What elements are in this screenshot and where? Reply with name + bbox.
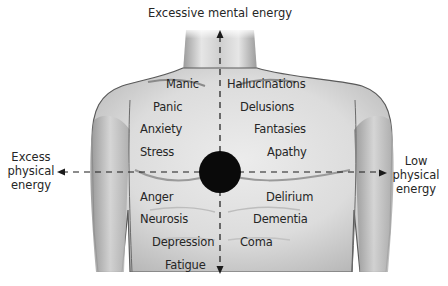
- label-dementia: Dementia: [253, 212, 308, 226]
- label-fantasies: Fantasies: [254, 122, 306, 136]
- arrow-left-icon: [57, 169, 65, 176]
- label-depression: Depression: [152, 235, 214, 249]
- label-stress: Stress: [140, 145, 174, 159]
- label-panic: Panic: [153, 100, 182, 114]
- left-axis-line: Excess: [4, 150, 58, 164]
- label-anger: Anger: [140, 190, 173, 204]
- label-hallucinations: Hallucinations: [227, 77, 305, 91]
- right-axis-line: Low: [388, 154, 444, 168]
- diagram: Excessive mental energy Excess physical …: [0, 0, 448, 286]
- label-delusions: Delusions: [240, 100, 294, 114]
- label-coma: Coma: [240, 235, 273, 249]
- left-axis-line: energy: [4, 178, 58, 192]
- left-axis-label: Excess physical energy: [4, 150, 58, 192]
- label-fatigue: Fatigue: [165, 258, 206, 272]
- right-axis-label: Low physical energy: [388, 154, 444, 196]
- torso-illustration: [0, 0, 448, 286]
- label-apathy: Apathy: [267, 145, 307, 159]
- right-axis-line: physical: [388, 168, 444, 182]
- left-axis-line: physical: [4, 164, 58, 178]
- right-axis-line: energy: [388, 182, 444, 196]
- center-dot: [199, 151, 241, 193]
- label-manic: Manic: [166, 77, 199, 91]
- label-anxiety: Anxiety: [140, 122, 182, 136]
- label-delirium: Delirium: [266, 190, 313, 204]
- top-axis-label: Excessive mental energy: [140, 6, 300, 20]
- label-neurosis: Neurosis: [140, 212, 188, 226]
